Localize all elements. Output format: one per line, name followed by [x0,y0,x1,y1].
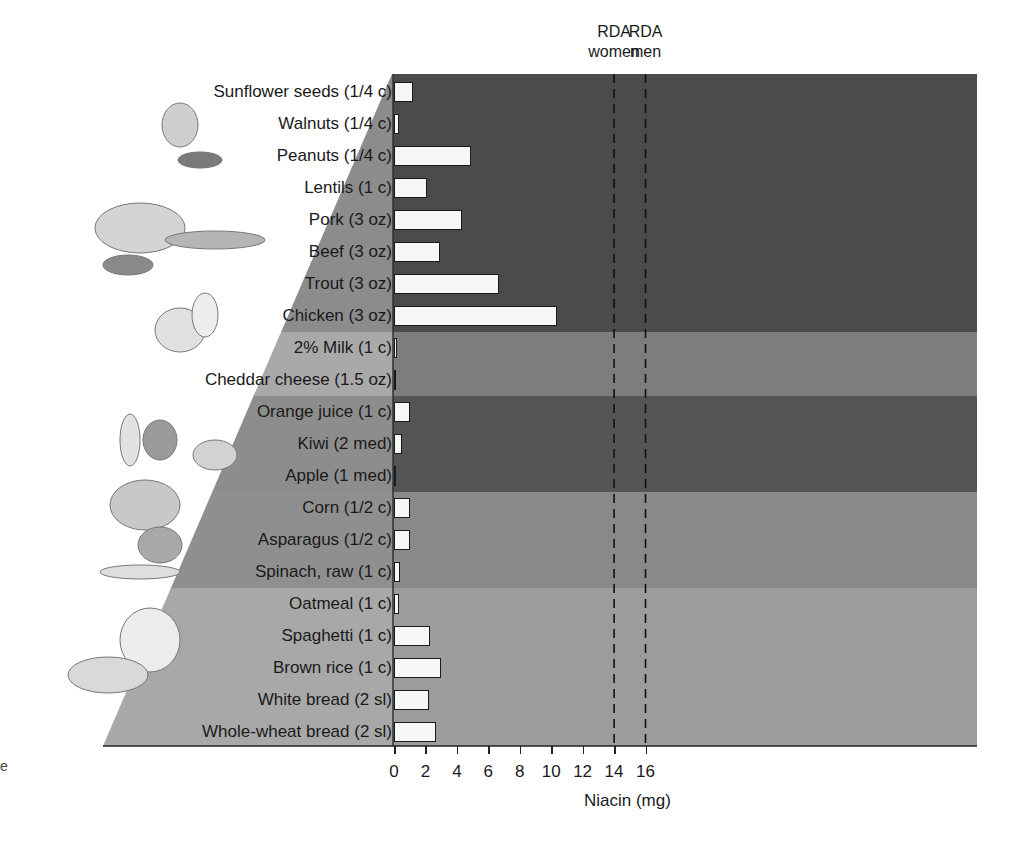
bar [394,690,429,710]
bar [394,370,396,390]
category-label: Spinach, raw (1 c) [255,561,392,582]
stray-text: e [0,758,8,774]
bar [394,434,402,454]
bar [394,242,440,262]
x-tick [425,746,427,754]
rda-label-line1: RDA [606,22,686,42]
x-tick [583,746,585,754]
nuts-seeds-icon [178,152,222,168]
category-label: Oatmeal (1 c) [289,593,392,614]
x-tick [614,746,616,754]
bar [394,146,471,166]
meat-fish-icon [103,255,153,275]
category-label: Lentils (1 c) [304,177,392,198]
group-band [393,492,977,588]
x-tick [457,746,459,754]
category-label: Orange juice (1 c) [257,401,392,422]
x-tick [488,746,490,754]
bar [394,306,557,326]
niacin-chart: Sunflower seeds (1/4 c)Walnuts (1/4 c)Pe… [0,0,1014,853]
nuts-seeds-icon [162,103,198,147]
bar [394,722,436,742]
bar [394,402,410,422]
fruit-icon [110,480,180,530]
x-tick [394,746,396,754]
meat-fish-icon [165,231,265,249]
chart-background [0,0,1014,853]
grains-bread-icon [68,657,148,693]
cheese-milk-icon [143,420,177,460]
category-label: Pork (3 oz) [309,209,392,230]
category-label: Spaghetti (1 c) [281,625,392,646]
group-band [393,332,977,396]
category-label: Apple (1 med) [285,465,392,486]
category-label: Cheddar cheese (1.5 oz) [205,369,392,390]
bar [394,658,441,678]
category-label: Sunflower seeds (1/4 c) [213,81,392,102]
x-tick [520,746,522,754]
category-label: Walnuts (1/4 c) [278,113,392,134]
bar [394,82,413,102]
bar [394,498,410,518]
bar [394,274,499,294]
cheese-milk-icon [192,293,218,337]
category-label: Brown rice (1 c) [273,657,392,678]
category-label: Beef (3 oz) [309,241,392,262]
fruit-icon [120,414,140,466]
category-label: Corn (1/2 c) [302,497,392,518]
bar [394,210,462,230]
bar [394,562,400,582]
rda-label: RDAmen [606,22,686,62]
x-tick-label: 16 [626,762,666,782]
vegetables-icon [138,527,182,563]
nuts-seeds-icon [95,203,185,253]
bar [394,114,399,134]
category-label: Trout (3 oz) [305,273,392,294]
x-tick [551,746,553,754]
vegetables-icon [100,565,180,579]
bar [394,594,399,614]
bar [394,178,427,198]
category-label: Asparagus (1/2 c) [258,529,392,550]
category-label: Kiwi (2 med) [298,433,392,454]
category-label: 2% Milk (1 c) [294,337,392,358]
group-band [393,396,977,492]
category-label: Whole-wheat bread (2 sl) [202,721,392,742]
group-band [393,588,977,746]
bar [394,626,430,646]
category-label: White bread (2 sl) [258,689,392,710]
category-label: Chicken (3 oz) [282,305,392,326]
x-axis-label: Niacin (mg) [584,791,671,811]
bar [394,530,410,550]
rda-label-line2: men [606,42,686,62]
bar [394,466,396,486]
x-tick [646,746,648,754]
category-label: Peanuts (1/4 c) [277,145,392,166]
fruit-icon [193,440,237,470]
bar [394,338,397,358]
